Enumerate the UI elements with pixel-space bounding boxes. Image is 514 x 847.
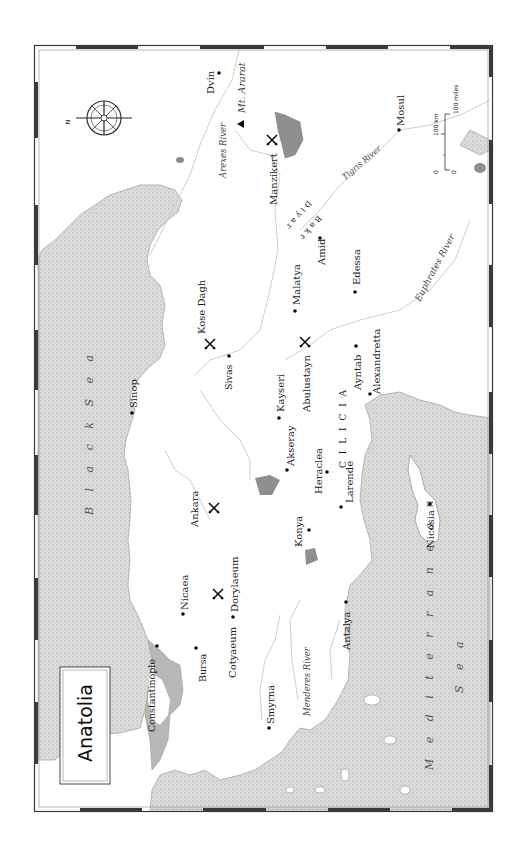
label-heraclea: Heraclea — [313, 448, 324, 494]
scale-zero-miles: 0 — [450, 170, 457, 174]
label-sinop: Sinop — [128, 379, 139, 408]
label-akseray: Akseray — [285, 425, 296, 467]
label-dvin: Dvin — [205, 70, 216, 94]
label-abulustayn: Abulustayn — [301, 355, 312, 413]
scale-zero-km: 0 — [432, 170, 439, 174]
label-cotyaeum: Cotyaeum — [227, 626, 238, 678]
label-kose-dagh: Kose Dagh — [196, 279, 207, 334]
label-konya: Konya — [293, 516, 304, 547]
black-sea-label: B l a c k S e a — [83, 349, 96, 516]
label-menderes-river: Menderes River — [302, 646, 312, 717]
label-constantinople: Constantinople — [146, 659, 157, 732]
label-kayseri: Kayseri — [275, 374, 286, 412]
scale-km-label: 100 km — [432, 113, 439, 136]
label-ayntab: Ayntab — [352, 355, 363, 391]
lake-small — [176, 157, 184, 163]
label-alexandretta: Alexandretta — [371, 328, 382, 395]
label-dorylaeum: Dorylaeum — [229, 556, 240, 612]
label-sivas: Sivas — [223, 364, 234, 390]
label-smyrna: Smyrna — [265, 685, 276, 724]
label-larende: Larende — [344, 461, 355, 503]
label-malatya: Malatya — [291, 264, 302, 305]
label-nicosia: Nicosia — [425, 510, 436, 548]
anatolia-map: N 0 0 100 km 100 miles Anatolia B l a c … — [0, 0, 514, 847]
label-ankara: Ankara — [189, 491, 200, 528]
label-bursa: Bursa — [197, 653, 208, 682]
label-mt-ararat: Mt. Ararat — [236, 62, 247, 114]
label-edessa: Edessa — [351, 249, 362, 285]
label-antalya: Antalya — [341, 612, 352, 651]
mediterranean-sea-label: S e a — [453, 635, 466, 693]
lake-small — [474, 163, 486, 173]
label-nicaea: Nicaea — [179, 575, 190, 610]
label-manzikert: Manzikert — [268, 153, 279, 205]
compass-north-label: N — [64, 120, 71, 125]
label-amid: Amid — [316, 238, 327, 266]
map-title: Anatolia — [74, 684, 96, 762]
label-arexes-river: Arexes River — [218, 122, 228, 179]
label-cilicia: C I L I C I A — [338, 388, 348, 468]
scale-miles-label: 100 miles — [452, 85, 459, 114]
label-mosul: Mosul — [395, 95, 406, 126]
